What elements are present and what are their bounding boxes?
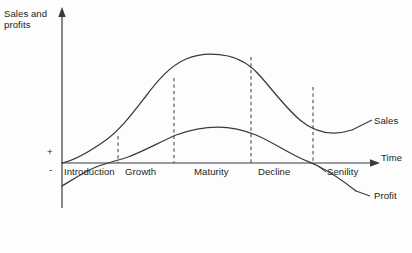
figure-canvas xyxy=(0,0,412,253)
y-axis-group xyxy=(58,7,65,208)
y-axis-negative-sign: - xyxy=(49,164,52,175)
stage-label-decline: Decline xyxy=(258,166,290,177)
series-label-sales: Sales xyxy=(374,115,398,126)
y-axis-title: Sales and profits xyxy=(4,8,66,31)
stage-label-introduction: Introduction xyxy=(64,166,115,177)
profit-leader-line xyxy=(356,191,370,196)
x-axis-title: Time xyxy=(381,152,402,163)
product-life-cycle-figure: Sales and profits + - Introduction Growt… xyxy=(0,0,412,253)
stage-label-senility: Senility xyxy=(327,166,358,177)
y-axis-positive-sign: + xyxy=(47,146,53,157)
profit-curve xyxy=(62,127,356,191)
stage-label-maturity: Maturity xyxy=(194,166,229,177)
sales-leader-line xyxy=(352,120,372,130)
stage-label-growth: Growth xyxy=(125,166,156,177)
series-label-profit: Profit xyxy=(374,190,397,201)
stage-divider-group xyxy=(118,57,313,163)
sales-curve xyxy=(62,54,352,163)
x-axis-arrowhead xyxy=(370,159,380,166)
